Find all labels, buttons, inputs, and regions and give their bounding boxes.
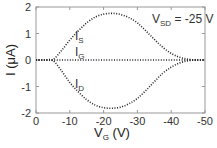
curve-label-is: IS [75,29,84,45]
curve-label-ig: IG [75,45,85,61]
x-tick-label: -40 [163,115,179,127]
x-axis-label: VG (V) [94,125,130,142]
x-tick-label: 0 [33,115,39,127]
y-tick-label: -1 [21,81,31,93]
y-axis-label: I (μA) [3,44,18,76]
y-tick-label: -2 [21,107,31,119]
curve-label-id: ID [75,77,84,93]
y-tick-label: 1 [25,28,31,40]
y-tick-label: 2 [25,1,31,13]
x-tick-label: -30 [129,115,145,127]
y-tick-label: 0 [25,54,31,66]
x-tick-label: -10 [62,115,78,127]
curves [36,13,205,108]
curve-id [36,60,205,109]
vsd-annotation: VSD = -25 V [152,12,214,28]
iv-chart: 0-10-20-30-40-50210-1-2 I (μA) VG (V) VS… [0,0,217,148]
x-tick-label: -50 [197,115,213,127]
